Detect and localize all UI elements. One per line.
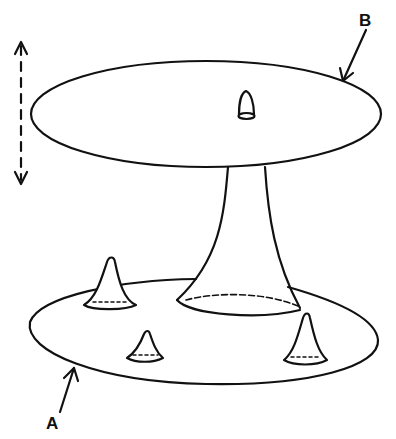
diagram-drawing (0, 0, 396, 439)
cone-right (284, 314, 327, 365)
surface-A (30, 279, 378, 384)
diagram-canvas: B A (0, 0, 396, 439)
label-A: A (46, 415, 58, 432)
surface-B (31, 61, 381, 167)
pointer-arrow-B-icon (340, 30, 366, 81)
vertical-double-arrow-icon (15, 42, 27, 184)
stem (177, 167, 300, 315)
pointer-arrow-A-icon (60, 368, 78, 412)
cone-middle (127, 331, 163, 362)
label-B: B (359, 12, 371, 29)
